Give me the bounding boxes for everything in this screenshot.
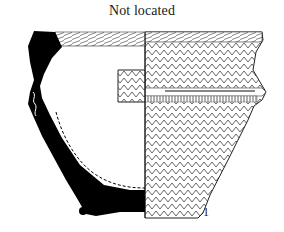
- lug-handle: [118, 70, 145, 102]
- exterior-half: [145, 32, 266, 218]
- figure-number: 1: [203, 205, 209, 220]
- rim-left: [55, 32, 145, 46]
- scale-dot: [79, 207, 87, 215]
- section-profile: [28, 31, 145, 216]
- vessel-drawing: [0, 0, 284, 232]
